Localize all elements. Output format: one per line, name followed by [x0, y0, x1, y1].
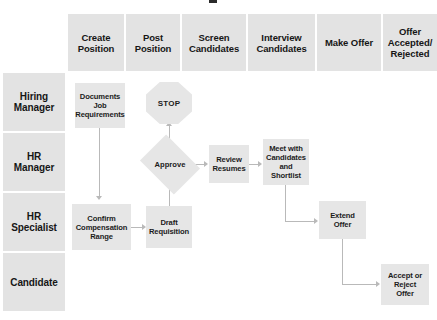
column-header-line: Accepted/ [386, 37, 435, 48]
node-accept-or-reject-offer[interactable]: Accept or Reject Offer [381, 264, 429, 305]
node-extend-offer[interactable]: Extend Offer [319, 201, 366, 239]
node-documents-job-requirements[interactable]: Documents Job Requirements [75, 83, 125, 128]
column-header-line: Create [76, 32, 117, 43]
node-label-line: Review [210, 155, 247, 164]
node-label-line: Candidates [264, 153, 308, 162]
column-header-line: Offer [386, 26, 435, 37]
node-label-line: Range [74, 232, 130, 241]
node-label-line: Documents [73, 92, 126, 101]
lane-label-line: Manager [12, 102, 56, 113]
node-approve[interactable]: Approve [146, 146, 194, 183]
node-label-line: Resumes [210, 164, 247, 173]
node-label-line: Extend Offer [321, 211, 364, 229]
node-label-line: Reject Offer [383, 280, 427, 298]
lane-label-line: Specialist [9, 222, 59, 233]
column-header-offer-accepted-rejected: Offer Accepted/ Rejected [383, 14, 437, 71]
node-label-line: Compensation [74, 223, 130, 232]
column-header-interview-candidates: Interview Candidates [248, 14, 315, 71]
column-header-line: Make Offer [323, 37, 375, 48]
lane-label-line: HR [12, 151, 56, 162]
column-header-line: Rejected [386, 48, 435, 59]
arrowhead-right-extend [314, 218, 318, 224]
lane-label-hr-specialist: HR Specialist [3, 193, 65, 251]
column-header-create-position: Create Position [68, 14, 124, 71]
node-label-line: and Shortlist [264, 162, 308, 180]
arrowhead-down-confirm [96, 196, 102, 200]
column-header-post-position: Post Position [126, 14, 180, 71]
lane-label-line: Manager [12, 162, 56, 173]
node-draft-requisition[interactable]: Draft Requisition [146, 206, 192, 248]
lane-label-candidate: Candidate [3, 253, 65, 311]
column-header-line: Interview [254, 32, 308, 43]
lane-label-line: Hiring [12, 91, 56, 102]
connector-meet-to-extend-vertical [285, 185, 286, 222]
connector-extend-to-accept-vertical [342, 239, 343, 285]
column-header-line: Position [133, 43, 174, 54]
node-meet-with-candidates-and-shortlist[interactable]: Meet with Candidates and Shortlist [263, 139, 309, 185]
column-header-make-offer: Make Offer [317, 14, 381, 71]
lane-label-hr-manager: HR Manager [3, 133, 65, 191]
column-header-line: Screen [187, 32, 241, 43]
connector-meet-to-extend-horizontal [285, 221, 315, 222]
node-label-line: STOP [158, 99, 180, 108]
clipped-title-sliver [209, 0, 217, 3]
column-header-line: Candidates [187, 43, 241, 54]
lane-label-line: Candidate [8, 277, 59, 288]
node-label-line: Confirm [74, 214, 130, 223]
node-review-resumes[interactable]: Review Resumes [209, 145, 249, 183]
node-label-line: Meet with [264, 144, 308, 153]
lane-label-line: HR [9, 211, 59, 222]
column-header-line: Position [76, 43, 117, 54]
column-header-line: Post [133, 32, 174, 43]
column-header-screen-candidates: Screen Candidates [182, 14, 246, 71]
node-stop[interactable]: STOP [146, 82, 192, 124]
lane-label-hiring-manager: Hiring Manager [3, 73, 65, 131]
swimlane-diagram-canvas: Create Position Post Position Screen Can… [0, 0, 437, 320]
node-confirm-compensation-range[interactable]: Confirm Compensation Range [72, 204, 131, 250]
connector-extend-to-accept-horizontal [342, 284, 377, 285]
node-label-line: Job [73, 101, 126, 110]
column-header-line: Candidates [254, 43, 308, 54]
arrowhead-right-accept [376, 281, 380, 287]
node-label-line: Accept or [383, 271, 427, 280]
node-label-line: Requirements [73, 110, 126, 119]
node-label-line: Draft [147, 218, 191, 227]
node-label-line: Requisition [147, 227, 191, 236]
node-label-line: Approve [155, 160, 186, 169]
connector-documents-to-confirm [99, 128, 100, 197]
arrowhead-right-review [204, 161, 208, 167]
